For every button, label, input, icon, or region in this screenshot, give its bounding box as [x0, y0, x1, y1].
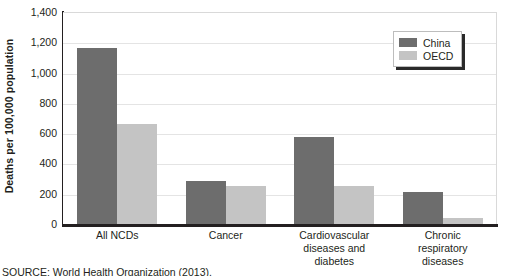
x-axis-category-label: Cancer: [172, 229, 281, 242]
y-axis-tick-label: 1,200: [31, 36, 57, 48]
bar-china-1: [186, 181, 226, 224]
x-axis-category-label-line: Chronic: [389, 229, 498, 242]
x-axis-line: [62, 224, 498, 227]
x-axis-category-label-line: diseases and: [280, 242, 389, 255]
y-axis-title: Deaths per 100,000 population: [0, 0, 18, 232]
x-axis-category-label-line: All NCDs: [63, 229, 172, 242]
x-axis-category-label: Cardiovasculardiseases anddiabetes: [280, 229, 389, 268]
legend-item-china[interactable]: China: [399, 36, 456, 49]
y-axis-tick-label: 400: [39, 157, 57, 169]
x-axis-category-label: All NCDs: [63, 229, 172, 242]
bar-oecd-2: [334, 186, 374, 224]
y-axis-tick-label: 1,400: [31, 6, 57, 18]
gridline: [63, 104, 496, 105]
legend-swatch-icon: [399, 51, 417, 60]
x-axis-category-label-line: Cancer: [172, 229, 281, 242]
legend-item-oecd[interactable]: OECD: [399, 49, 456, 62]
x-axis-category-label: Chronicrespiratorydiseases: [389, 229, 498, 268]
x-axis-category-label-line: respiratory: [389, 242, 498, 255]
x-axis-category-label-line: diseases: [389, 255, 498, 268]
chart-legend: ChinaOECD: [393, 31, 462, 67]
bar-china-0: [77, 48, 117, 224]
x-axis-category-label-line: Cardiovascular: [280, 229, 389, 242]
bar-chart-figure: Deaths per 100,000 population 0200400600…: [0, 0, 506, 276]
y-axis-tick-labels: 02004006008001,0001,2001,400: [18, 12, 62, 224]
y-axis-tick-label: 600: [39, 127, 57, 139]
bar-china-3: [403, 192, 443, 224]
legend-label: China: [423, 37, 450, 49]
source-note: SOURCE: World Health Organization (2013)…: [2, 266, 212, 276]
y-axis-tick-label: 200: [39, 188, 57, 200]
x-axis-category-label-line: diabetes: [280, 255, 389, 268]
legend-label: OECD: [423, 50, 453, 62]
bar-oecd-1: [226, 186, 266, 224]
bar-oecd-0: [117, 124, 157, 224]
y-axis-tick-label: 800: [39, 97, 57, 109]
gridline: [63, 74, 496, 75]
y-axis-title-text: Deaths per 100,000 population: [3, 39, 15, 194]
y-axis-tick-label: 0: [51, 218, 57, 230]
bar-china-2: [294, 137, 334, 224]
y-axis-tick-label: 1,000: [31, 67, 57, 79]
legend-swatch-icon: [399, 38, 417, 47]
